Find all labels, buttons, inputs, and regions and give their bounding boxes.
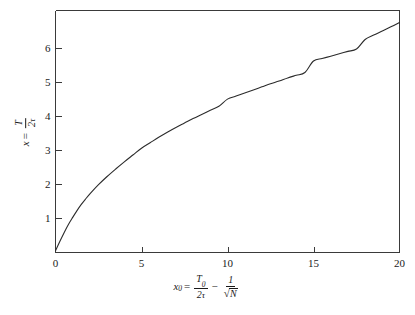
x-label-fraction-2: 1 √N [222,275,240,299]
x-label-equals: = [182,281,192,292]
y-tick-label: 2 [45,179,51,190]
y-label-frac-num: T [15,118,27,128]
y-axis-label-math: x = T 2τ [15,114,38,145]
x-tick-label: 10 [222,258,233,269]
x-label-frac2-num: 1 [226,275,235,287]
y-axis-label-inner: x = T 2τ [15,114,38,145]
figure-container: 05101520 123456 x = T 2τ x0 = T0 2τ − [0,0,415,315]
plot-svg [0,0,415,315]
y-tick-label: 6 [45,42,51,53]
y-label-frac-den-tau: τ [28,118,38,121]
y-tick-label: 1 [45,213,51,224]
x-tick-label: 5 [139,258,145,269]
data-curve [56,22,400,250]
y-axis-label: x = T 2τ [6,106,46,154]
x-label-frac1-den-tau: τ [202,290,205,300]
data-series-group [56,22,400,250]
x-axis-label: x0 = T0 2τ − 1 √N [0,274,415,300]
x-label-frac1-den: 2τ [195,289,207,300]
x-axis-label-math: x0 = T0 2τ − 1 √N [173,274,241,300]
x-label-minus: − [210,281,220,292]
x-label-fraction-1: T0 2τ [194,274,207,300]
y-tick-label: 5 [45,77,51,88]
y-label-equals: = [21,131,32,141]
x-label-frac1-num-sub: 0 [202,280,206,289]
x-label-radicand: N [229,288,238,299]
plot-frame [56,11,400,253]
y-label-var: x [21,141,32,146]
x-label-frac1-num: T0 [194,274,207,289]
sqrt-group: √N [224,288,238,299]
x-tick-label: 0 [53,258,59,269]
axis-ticks [56,49,315,253]
x-tick-label: 20 [394,258,405,269]
x-tick-label: 15 [308,258,319,269]
x-label-frac2-den: √N [222,287,240,299]
x-label-var-sub: 0 [178,285,182,293]
y-label-fraction: T 2τ [15,116,38,128]
y-label-frac-den: 2τ [27,116,38,128]
y-label-frac-den-coeff: 2 [27,122,38,127]
frame-rect [56,11,400,253]
